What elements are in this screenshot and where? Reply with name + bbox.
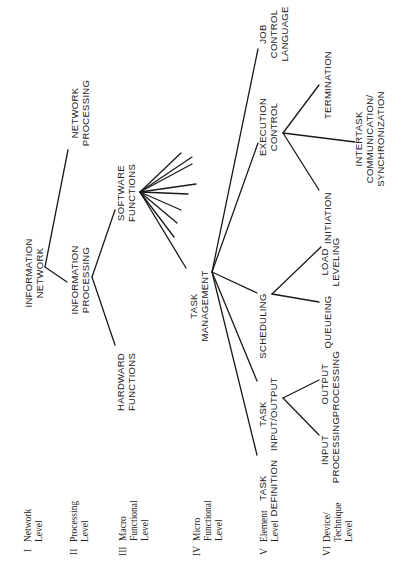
node-execution-control: EXECUTION CONTROL xyxy=(257,98,279,156)
svg-text:Level: Level xyxy=(214,519,224,541)
edge-taskio-to-input xyxy=(283,398,319,435)
svg-text:PROCESSING: PROCESSING xyxy=(80,247,91,313)
svg-text:SYNCHRONIZATION: SYNCHRONIZATION xyxy=(375,91,386,187)
level-label-ii: II Processing Level xyxy=(69,501,90,555)
edge-scheduling-to-queueing xyxy=(272,294,319,302)
svg-text:FUNCTIONS: FUNCTIONS xyxy=(126,353,137,411)
svg-text:MANAGEMENT: MANAGEMENT xyxy=(199,270,210,341)
node-information-processing: INFORMATION PROCESSING xyxy=(69,245,91,314)
edge-scheduling-to-load-leveling xyxy=(272,247,321,294)
svg-text:Device/: Device/ xyxy=(322,512,332,542)
svg-text:SOFTWARE: SOFTWARE xyxy=(115,165,126,221)
level-label-iv: IV Micro Functional Level xyxy=(192,500,224,556)
software-functions-fan xyxy=(140,153,196,268)
node-information-network: INFORMATION NETWORK xyxy=(23,238,45,307)
svg-text:INPUT: INPUT xyxy=(319,435,330,465)
svg-text:CONTROL: CONTROL xyxy=(268,10,279,59)
svg-text:LANGUAGE: LANGUAGE xyxy=(279,6,290,61)
svg-text:Element: Element xyxy=(259,510,269,542)
svg-text:Technique: Technique xyxy=(333,503,343,542)
level-label-i: I Network Level xyxy=(23,509,44,552)
svg-text:DEFINITION: DEFINITION xyxy=(268,460,279,517)
node-task-input-output: TASK INPUT/OUTPUT xyxy=(257,377,279,451)
svg-text:Level: Level xyxy=(80,520,90,542)
svg-text:FUNCTIONS: FUNCTIONS xyxy=(126,164,137,222)
svg-text:SCHEDULING: SCHEDULING xyxy=(257,293,268,358)
node-output-processing: OUTPUT PROCESSING xyxy=(319,351,341,417)
svg-text:NETWORK: NETWORK xyxy=(69,87,80,138)
svg-text:COMMUNICATION/: COMMUNICATION/ xyxy=(364,95,375,184)
svg-text:Level: Level xyxy=(270,520,280,542)
svg-text:INPUT/OUTPUT: INPUT/OUTPUT xyxy=(268,377,279,451)
svg-text:INFORMATION: INFORMATION xyxy=(23,238,34,307)
svg-text:TASK: TASK xyxy=(188,293,199,319)
svg-text:INITIATION: INITIATION xyxy=(322,192,333,244)
node-initiation: INITIATION xyxy=(322,192,333,244)
svg-text:V: V xyxy=(259,548,269,555)
edge-software-to-task-management xyxy=(140,192,186,268)
node-scheduling: SCHEDULING xyxy=(257,293,268,358)
edge-exec-to-intertask xyxy=(283,133,355,142)
svg-text:IV: IV xyxy=(192,546,202,556)
edge-network-to-information-processing xyxy=(45,267,67,282)
edge-processing-to-software xyxy=(92,210,115,277)
svg-text:VI: VI xyxy=(322,546,332,556)
svg-text:Micro: Micro xyxy=(192,518,202,541)
svg-text:NETWORK: NETWORK xyxy=(34,247,45,298)
svg-text:PROCESSING: PROCESSING xyxy=(80,80,91,146)
svg-text:QUEUEING: QUEUEING xyxy=(322,295,333,348)
svg-text:Network: Network xyxy=(23,509,33,542)
node-software-functions: SOFTWARE FUNCTIONS xyxy=(115,164,137,222)
edge-exec-to-termination xyxy=(283,85,319,133)
svg-text:OUTPUT: OUTPUT xyxy=(319,364,330,405)
svg-text:Level: Level xyxy=(140,519,150,541)
hierarchy-diagram: INFORMATION NETWORK NETWORK PROCESSING I… xyxy=(0,0,401,570)
svg-text:Level: Level xyxy=(34,520,44,542)
node-task-management: TASK MANAGEMENT xyxy=(188,270,210,341)
svg-text:III: III xyxy=(118,547,128,557)
svg-text:Functional: Functional xyxy=(129,500,139,541)
edge-network-to-network-processing xyxy=(45,150,68,267)
level-label-iii: III Macro Functional Level xyxy=(118,500,150,556)
svg-text:Functional: Functional xyxy=(203,500,213,541)
edge-taskio-to-output xyxy=(283,380,319,398)
node-intertask-communication: INTERTASK COMMUNICATION/ SYNCHRONIZATION xyxy=(353,91,386,187)
svg-text:Processing: Processing xyxy=(69,501,79,542)
node-network-processing: NETWORK PROCESSING xyxy=(69,80,91,146)
svg-text:I: I xyxy=(23,549,33,552)
svg-text:HARDWARD: HARDWARD xyxy=(115,353,126,411)
node-task-definition: TASK DEFINITION xyxy=(257,460,279,517)
svg-text:LEVELING: LEVELING xyxy=(330,238,341,287)
node-job-control-language: JOB CONTROL LANGUAGE xyxy=(257,6,290,61)
svg-text:TERMINATION: TERMINATION xyxy=(322,51,333,119)
edge-processing-to-hardware xyxy=(92,277,115,345)
svg-text:Macro: Macro xyxy=(118,516,128,541)
edges xyxy=(45,49,355,455)
svg-text:EXECUTION: EXECUTION xyxy=(257,98,268,156)
svg-text:II: II xyxy=(69,549,79,555)
node-hardward-functions: HARDWARD FUNCTIONS xyxy=(115,353,137,411)
node-queueing: QUEUEING xyxy=(322,295,333,348)
svg-text:PROCESSING: PROCESSING xyxy=(330,351,341,417)
node-termination: TERMINATION xyxy=(322,51,333,119)
edge-exec-to-initiation xyxy=(283,133,319,190)
svg-text:TASK: TASK xyxy=(257,475,268,501)
svg-text:LOAD: LOAD xyxy=(319,248,330,275)
svg-text:CONTROL: CONTROL xyxy=(268,103,279,152)
level-label-vi: VI Device/ Technique Level xyxy=(322,503,354,556)
svg-text:INTERTASK: INTERTASK xyxy=(353,111,364,166)
svg-text:JOB: JOB xyxy=(257,24,268,43)
svg-text:Level: Level xyxy=(344,520,354,542)
svg-text:INFORMATION: INFORMATION xyxy=(69,245,80,314)
svg-text:TASK: TASK xyxy=(257,401,268,427)
svg-text:PROCESSING: PROCESSING xyxy=(330,417,341,483)
node-input-processing: INPUT PROCESSING xyxy=(319,417,341,483)
